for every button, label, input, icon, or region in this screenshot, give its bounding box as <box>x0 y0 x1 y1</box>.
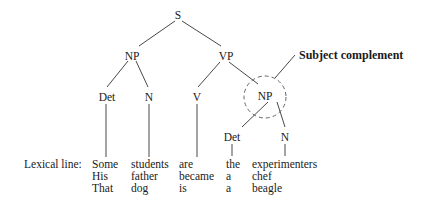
node-vp: VP <box>219 50 234 62</box>
annotation-leader-line <box>275 55 295 78</box>
lexical-word: are <box>179 158 193 170</box>
lexical-word: father <box>131 170 158 182</box>
annotation-subject-complement: Subject complement <box>299 48 403 62</box>
lexical-column-n2: experimenters chef beagle <box>252 158 318 195</box>
lexical-word: students <box>131 158 169 170</box>
edge-vp-np <box>229 62 258 84</box>
lexical-word: the <box>226 158 240 170</box>
lexical-word: is <box>179 182 187 194</box>
lexical-column-det2: the a a <box>226 158 240 194</box>
node-det-subject: Det <box>99 91 116 103</box>
lexical-word: a <box>226 170 231 182</box>
node-n-subject: N <box>145 91 154 103</box>
edge-s-vp <box>182 21 221 46</box>
node-n-complement: N <box>281 131 290 143</box>
lexical-line-label: Lexical line: <box>24 158 82 170</box>
lexical-word: chef <box>252 170 272 182</box>
lexical-word: That <box>92 182 114 194</box>
lexical-column-n: students father dog <box>131 158 169 195</box>
lexical-word: Some <box>92 158 118 170</box>
lexical-column-det: Some His That <box>92 158 118 194</box>
edge-np-det <box>107 61 128 87</box>
node-np-complement: NP <box>258 90 273 102</box>
lexical-word: became <box>179 170 214 182</box>
syntax-tree-diagram: S NP VP Det N V NP Det N Subject complem… <box>0 0 432 208</box>
edge-np-n <box>136 61 148 87</box>
edge-s-np <box>139 21 175 46</box>
node-np-subject: NP <box>125 50 140 62</box>
edge-vp-v <box>198 62 220 87</box>
node-s: S <box>175 9 181 21</box>
lexical-word: a <box>226 182 231 194</box>
lexical-column-v: are became is <box>179 158 214 194</box>
lexical-word: dog <box>131 182 149 195</box>
lexical-word: His <box>92 170 109 182</box>
lexical-word: beagle <box>252 182 282 195</box>
tree-edges <box>106 21 295 157</box>
node-v: V <box>193 91 202 103</box>
node-det-complement: Det <box>224 131 241 143</box>
